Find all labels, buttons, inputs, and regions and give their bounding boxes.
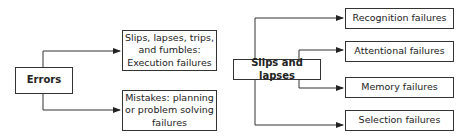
selection-failures-node: Selection failures [345,110,454,131]
slips-and-lapses-node: Slips and lapses [233,59,321,80]
execution-failures-node: Slips, lapses, trips, and fumbles: Execu… [122,30,217,71]
errors-node: Errors [15,67,73,94]
mistakes-label: Mistakes: planning or problem solving fa… [123,92,216,130]
errors-label: Errors [27,74,61,87]
attentional-failures-label: Attentional failures [354,45,444,58]
selection-failures-label: Selection failures [359,114,441,127]
slips-and-lapses-label: Slips and lapses [234,57,320,82]
recognition-failures-node: Recognition failures [345,8,454,29]
execution-failures-label: Slips, lapses, trips, and fumbles: Execu… [123,32,216,70]
mistakes-node: Mistakes: planning or problem solving fa… [122,90,217,131]
attentional-failures-node: Attentional failures [345,41,454,62]
memory-failures-node: Memory failures [345,77,454,98]
memory-failures-label: Memory failures [361,81,438,94]
recognition-failures-label: Recognition failures [353,12,447,25]
